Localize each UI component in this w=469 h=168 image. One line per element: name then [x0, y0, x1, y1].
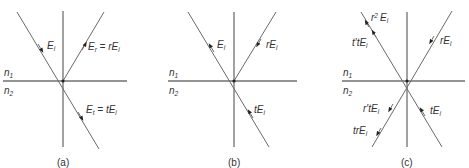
r-incoming-label: rEi: [440, 35, 452, 47]
transmitted-label: Et = tEi: [86, 104, 117, 116]
caption-b: (b): [228, 157, 240, 168]
r-prime-t-label: r′tEi: [363, 103, 380, 115]
incident-transmitted-ray: [188, 12, 269, 147]
incident-label: Ei: [47, 40, 56, 52]
incident-label: Ei: [217, 39, 226, 51]
r-squared-label: r2Ei: [371, 12, 389, 24]
n1-label: n1: [343, 67, 353, 79]
n2-label: n2: [343, 85, 353, 97]
origin-dot: [232, 79, 235, 82]
n2-label: n2: [169, 85, 179, 97]
reflection-transmission-diagram: n1 n2 Ei Er = rEi Et = tEi (a) n1 n2 Ei …: [0, 0, 469, 168]
panel-b: n1 n2 Ei rEi tEi (b): [168, 12, 297, 168]
n2-label: n2: [4, 85, 14, 97]
origin-dot: [61, 79, 64, 82]
origin-dot: [405, 79, 408, 82]
panel-a: n1 n2 Ei Er = rEi Et = tEi (a): [3, 11, 127, 168]
transmitted-label: tEi: [254, 104, 265, 116]
reflected-label: Er = rEi: [88, 41, 120, 53]
caption-a: (a): [57, 157, 69, 168]
tpt-out-arrow-icon: [373, 32, 376, 37]
tr-label: trEi: [353, 125, 368, 137]
t-prime-t-label: t′tEi: [352, 37, 368, 49]
t-incoming-label: tEi: [430, 105, 441, 117]
panel-c: n1 n2 r2Ei t′tEi rEi tEi r′tEi trEi (c): [342, 11, 465, 168]
n1-label: n1: [4, 67, 14, 79]
r-in-arrow-icon: [431, 36, 435, 42]
rpt-out-arrow-icon: [390, 104, 394, 110]
n1-label: n1: [169, 67, 179, 79]
incident-out-arrow-icon: [210, 45, 214, 52]
reflected-arrow-icon: [82, 44, 86, 50]
upper-right-lower-left-ray: [372, 11, 452, 147]
caption-c: (c): [401, 157, 413, 168]
reflected-label: rEi: [266, 39, 278, 51]
